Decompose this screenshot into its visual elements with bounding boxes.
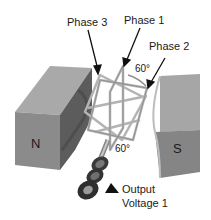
phase3-label: Phase 3: [67, 16, 107, 28]
phase2-label: Phase 2: [149, 40, 189, 52]
angle-top-label: 60°: [135, 63, 150, 74]
output-arrow-icon: [105, 183, 119, 193]
north-magnet: [15, 66, 92, 170]
north-pole-label: N: [31, 136, 40, 151]
phase1-label: Phase 1: [124, 14, 164, 26]
output-voltage-label-line1: Output: [122, 183, 155, 195]
generator-diagram: Phase 3 Phase 1 Phase 2 60° 60° N S Outp…: [0, 0, 211, 220]
angle-bottom-label: 60°: [115, 143, 130, 154]
output-voltage-label-line2: Voltage 1: [122, 197, 168, 209]
south-pole-label: S: [173, 141, 182, 156]
shaft-slip-rings: [74, 140, 111, 203]
south-magnet: [153, 74, 200, 178]
diagram-graphic: [0, 0, 211, 220]
